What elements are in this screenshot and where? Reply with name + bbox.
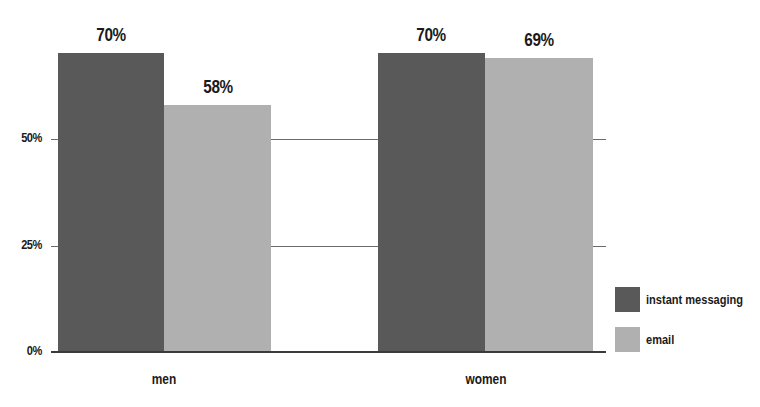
value-label-women-email: 69% xyxy=(494,30,584,51)
legend-item-email: email xyxy=(615,327,679,352)
bar-women-email xyxy=(485,58,593,352)
y-tick-25: 25% xyxy=(8,237,42,252)
y-tick-0: 0% xyxy=(8,343,42,358)
value-label-men-email: 58% xyxy=(173,77,263,98)
bar-men-instant-messaging xyxy=(58,53,164,352)
y-tick-50: 50% xyxy=(8,130,42,145)
legend-label: email xyxy=(646,332,674,347)
value-label-women-im: 70% xyxy=(386,25,476,46)
legend-item-instant-messaging: instant messaging xyxy=(615,287,760,312)
category-label-women: women xyxy=(435,371,537,387)
value-label-men-im: 70% xyxy=(66,25,156,46)
x-axis-line xyxy=(51,351,606,353)
bar-men-email xyxy=(164,105,271,352)
bar-chart: 50% 25% 0% 70% 58% 70% 69% men women ins… xyxy=(0,0,760,407)
category-label-men: men xyxy=(113,371,215,387)
legend-swatch-light xyxy=(615,327,640,352)
bar-women-instant-messaging xyxy=(378,53,485,352)
legend-swatch-dark xyxy=(615,287,640,312)
legend-label: instant messaging xyxy=(646,292,743,307)
